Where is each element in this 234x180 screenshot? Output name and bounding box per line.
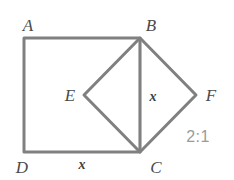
vertex-label-b: B [146, 17, 156, 34]
vertex-label-c: C [150, 159, 161, 176]
vertex-label-d: D [16, 159, 28, 176]
side-label-dc: x [79, 158, 86, 172]
vertex-label-f: F [206, 87, 216, 104]
geometry-canvas [0, 0, 234, 180]
vertex-label-e: E [65, 87, 75, 104]
geometry-figure: A B E F D C x x 2:1 [0, 0, 234, 180]
ratio-label: 2:1 [186, 129, 210, 145]
side-label-bc: x [150, 90, 157, 104]
vertex-label-a: A [23, 17, 33, 34]
